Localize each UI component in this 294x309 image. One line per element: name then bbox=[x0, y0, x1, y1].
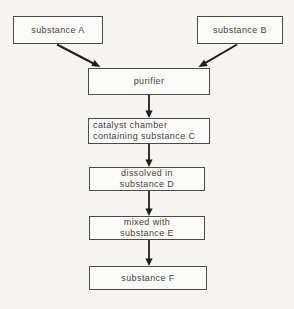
node-purifier-label: purifier bbox=[134, 76, 165, 87]
node-dissolved-label-line1: dissolved in bbox=[121, 168, 173, 179]
node-mixed-label-line1: mixed with bbox=[124, 217, 171, 228]
node-substance-f: substance F bbox=[89, 266, 207, 290]
arrow-substance-b-to-purifier-icon bbox=[199, 45, 238, 68]
node-catalyst-chamber: catalyst chamber containing substance C bbox=[88, 118, 210, 144]
node-mixed-label-line2: substance E bbox=[120, 228, 174, 239]
node-substance-b-label: substance B bbox=[213, 25, 267, 36]
node-substance-b: substance B bbox=[197, 16, 283, 44]
flow-arrows-layer bbox=[0, 0, 294, 309]
node-substance-a-label: substance A bbox=[31, 25, 84, 36]
flowchart-canvas: substance A substance B purifier catalys… bbox=[0, 0, 294, 309]
arrow-dissolved-to-mixed-icon bbox=[145, 191, 152, 216]
node-catalyst-chamber-label-line1: catalyst chamber bbox=[93, 120, 167, 131]
node-substance-f-label: substance F bbox=[121, 273, 174, 284]
arrow-purifier-to-catalyst-icon bbox=[145, 95, 152, 118]
node-dissolved-label-line2: substance D bbox=[120, 179, 174, 190]
node-catalyst-chamber-label-line2: containing substance C bbox=[93, 131, 195, 142]
node-substance-a: substance A bbox=[13, 16, 103, 44]
arrow-substance-a-to-purifier-icon bbox=[57, 45, 101, 68]
arrow-catalyst-to-dissolved-icon bbox=[145, 144, 152, 167]
node-purifier: purifier bbox=[88, 68, 210, 95]
node-mixed-substance-e: mixed with substance E bbox=[89, 216, 205, 240]
node-dissolved-substance-d: dissolved in substance D bbox=[89, 167, 205, 191]
arrow-mixed-to-substance-f-icon bbox=[145, 240, 152, 266]
